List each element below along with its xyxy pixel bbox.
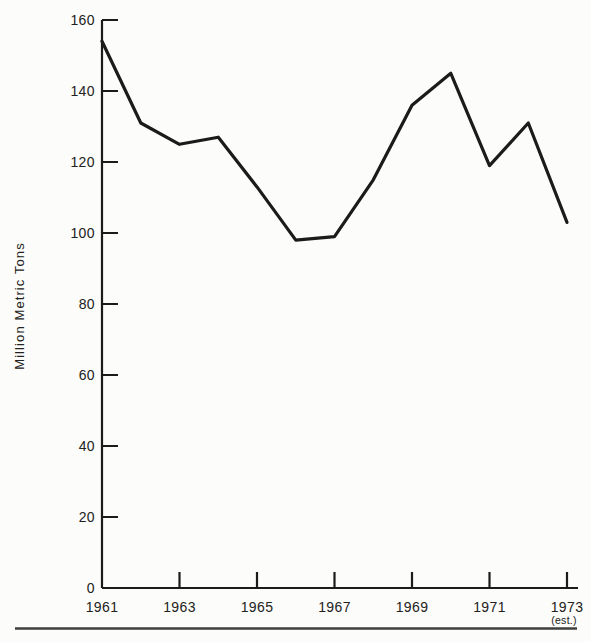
y-tick-label: 0 bbox=[87, 580, 95, 596]
data-line bbox=[102, 41, 567, 240]
y-tick-label: 60 bbox=[79, 367, 95, 383]
x-tick-label: 1963 bbox=[163, 599, 196, 615]
y-axis-title: Million Metric Tons bbox=[12, 242, 27, 370]
figure-page: 020406080100120140160 196119631965196719… bbox=[0, 0, 591, 642]
x-tick-label: 1965 bbox=[241, 599, 274, 615]
y-tick-label: 140 bbox=[70, 83, 95, 99]
x-tick-label: 1961 bbox=[86, 599, 119, 615]
x-axis-ticks: 1961196319651967196919711973(est.) bbox=[86, 572, 584, 626]
y-tick-label: 160 bbox=[70, 12, 95, 28]
axes bbox=[102, 20, 578, 588]
y-tick-label: 100 bbox=[70, 225, 95, 241]
y-tick-label: 20 bbox=[79, 509, 95, 525]
y-tick-label: 120 bbox=[70, 154, 95, 170]
x-tick-label: 1969 bbox=[396, 599, 429, 615]
x-tick-label: 1973 bbox=[551, 599, 584, 615]
x-tick-label: 1967 bbox=[318, 599, 351, 615]
x-tick-label: 1971 bbox=[473, 599, 506, 615]
y-axis-ticks: 020406080100120140160 bbox=[70, 12, 118, 596]
estimate-note: (est.) bbox=[551, 614, 577, 626]
line-chart: 020406080100120140160 196119631965196719… bbox=[0, 0, 591, 642]
y-tick-label: 40 bbox=[79, 438, 95, 454]
y-tick-label: 80 bbox=[79, 296, 95, 312]
